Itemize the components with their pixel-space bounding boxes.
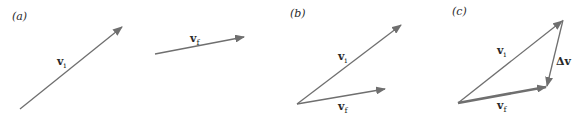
vi-arrow-a — [20, 27, 122, 109]
panel-c: (c) vi vf Δv — [452, 5, 572, 114]
vf-arrow-a — [155, 37, 244, 54]
vi-label-c: vi — [496, 44, 506, 59]
vf-label-b: vf — [337, 100, 348, 115]
vf-label-a: vf — [189, 32, 200, 47]
vector-subtraction-diagram: (a) vi vf (b) vi vf (c) vi vf Δv — [0, 0, 575, 120]
panel-b-label: (b) — [290, 7, 306, 20]
panel-a-label: (a) — [12, 10, 27, 23]
vi-arrow-b — [297, 25, 401, 104]
vi-arrow-c — [458, 21, 562, 103]
panel-c-label: (c) — [452, 5, 467, 18]
delta-v-label: Δv — [556, 55, 572, 68]
vi-label-a: vi — [56, 55, 66, 70]
vi-label-b: vi — [337, 50, 347, 65]
panel-b: (b) vi vf — [290, 7, 401, 115]
vf-label-c: vf — [496, 99, 507, 114]
delta-v-arrow — [547, 20, 563, 86]
panel-a: (a) vi vf — [12, 10, 244, 109]
